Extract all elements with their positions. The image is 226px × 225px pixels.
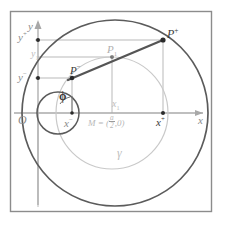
dot-x-minus: [70, 111, 74, 115]
tick-y-plus-sup: +: [23, 30, 27, 37]
p-minus-sup: −: [77, 63, 81, 70]
dot-p-plus: [160, 37, 165, 42]
y-axis-arrow: [35, 20, 42, 29]
p-one-base: P: [107, 43, 114, 55]
y-axis-label: y: [28, 21, 33, 32]
tick-label-y-minus: y−: [18, 71, 27, 83]
point-label-p-one: P1: [107, 44, 117, 58]
center-expr-tail: ,0): [115, 118, 125, 128]
origin-label: O: [18, 114, 27, 126]
angle-label-phi: ϕ: [59, 90, 67, 102]
curve-label-gamma: γ: [117, 147, 122, 159]
tick-y-minus-sup: −: [23, 70, 27, 77]
x-axis-label: x: [198, 115, 203, 126]
tick-label-x-one: x1: [112, 99, 120, 111]
tick-label-x-minus: x−: [64, 117, 73, 129]
p-minus-base: P: [70, 64, 77, 76]
tick-y-one-sub: 1: [35, 54, 38, 61]
point-label-p-plus: P+: [167, 27, 179, 40]
tick-x-plus-sup: +: [161, 115, 165, 122]
tick-label-y-plus: y+: [18, 31, 27, 43]
dot-y-plus: [36, 38, 40, 42]
geometry-figure: y x O y+ y1 y− x− x1 x+ P+ P− P1 ϕ γ M =…: [0, 0, 226, 225]
tick-x-minus-sup: −: [69, 116, 73, 123]
tick-label-x-plus: x+: [156, 116, 165, 128]
tick-label-y-one: y1: [31, 49, 39, 61]
point-dots: [36, 37, 166, 115]
dot-p-minus: [70, 76, 75, 81]
p-one-sub: 1: [114, 50, 117, 57]
point-label-p-minus: P−: [70, 64, 81, 76]
center-label-m: M = (a2,0): [88, 114, 125, 129]
p-plus-sup: +: [174, 26, 178, 35]
figure-frame: [11, 12, 212, 212]
tick-x-one-sub: 1: [116, 104, 119, 111]
center-expr-lead: M = (: [88, 118, 109, 128]
dot-y-minus: [36, 76, 40, 80]
